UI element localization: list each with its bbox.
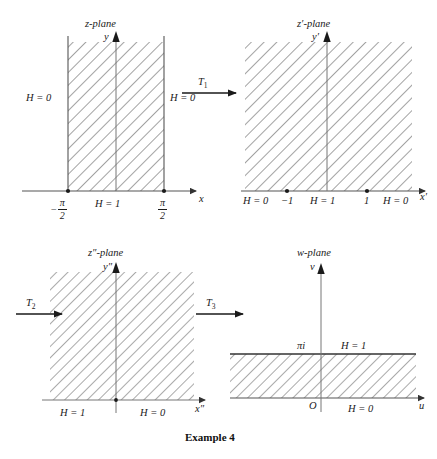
z-plane-tick-label-minus-pi-over-2: −π2 [51, 198, 67, 221]
w-plane-hatched-strip [230, 354, 416, 398]
panel-z-double-prime-plane-graphics [42, 262, 205, 413]
w-plane-strip-top-tick-label: πi [297, 341, 305, 352]
transform-label-T3: T3 [206, 297, 216, 311]
w-plane-origin-label: O [309, 401, 317, 412]
w-plane-v-axis-label: v [310, 262, 315, 273]
z-prime-x-axis-label: x′ [420, 192, 427, 203]
z-plane-right-boundary-label: H = 0 [170, 93, 195, 104]
z-double-prime-y-axis-label: y″ [103, 262, 112, 273]
w-plane-u-axis-label: u [419, 401, 424, 412]
fraction-pi-over-2: π2 [158, 198, 167, 221]
fraction-pi-over-2: π2 [58, 198, 67, 221]
z-plane-tick-pi-over-2 [162, 189, 166, 193]
z-prime-y-axis-label: y′ [312, 32, 319, 43]
z-plane-tick-minus-pi-over-2 [66, 189, 70, 193]
z-prime-left-outer-label: H = 0 [243, 196, 268, 207]
z-plane-title: z-plane [85, 19, 116, 30]
z-plane-tick-label-pi-over-2: π2 [158, 198, 167, 221]
figure-caption: Example 4 [185, 431, 235, 443]
z-prime-center-label: H = 1 [310, 196, 335, 207]
transform-label-T1: T1 [198, 76, 208, 90]
transform-label-T2: T2 [26, 297, 36, 311]
w-plane-v-axis-arrowhead [317, 263, 324, 274]
z-prime-right-outer-label: H = 0 [383, 196, 408, 207]
z-prime-hatched-region [245, 42, 412, 191]
z-double-prime-plane-title: z″-plane [88, 248, 123, 259]
z-double-prime-origin-dot [114, 398, 118, 402]
z-prime-plane-title: z′-plane [297, 19, 330, 30]
z-plane-y-axis-label: y [104, 32, 109, 43]
figure-example-4: z-plane y x H = 0 H = 0 H = 1 −π2 π2 T1 … [0, 0, 437, 459]
z-double-prime-y-axis-arrowhead [112, 262, 119, 273]
z-double-prime-x-axis-label: x″ [195, 404, 204, 415]
w-plane-top-boundary-label: H = 1 [341, 341, 366, 352]
z-prime-tick-minus-one [285, 189, 289, 193]
minus-sign: − [51, 205, 58, 215]
z-prime-y-axis-arrowhead [323, 31, 330, 42]
panel-w-plane-graphics [230, 263, 424, 412]
z-prime-tick-one [365, 189, 369, 193]
z-double-prime-hatched-region [50, 272, 194, 400]
z-plane-base-label: H = 1 [95, 199, 120, 210]
z-plane-left-boundary-label: H = 0 [26, 93, 51, 104]
w-plane-bottom-boundary-label: H = 0 [348, 404, 373, 415]
z-prime-tick-label-one: 1 [364, 196, 369, 207]
z-plane-x-axis-label: x [199, 194, 204, 205]
z-double-prime-left-label: H = 1 [60, 408, 85, 419]
figure-linework [0, 0, 437, 459]
w-plane-title: w-plane [297, 248, 331, 259]
panel-z-prime-plane-graphics [241, 31, 425, 193]
z-double-prime-right-label: H = 0 [140, 408, 165, 419]
panel-z-plane-graphics [22, 31, 196, 193]
z-prime-tick-label-minus-one: −1 [281, 196, 293, 207]
z-plane-y-axis-arrowhead [112, 31, 119, 42]
